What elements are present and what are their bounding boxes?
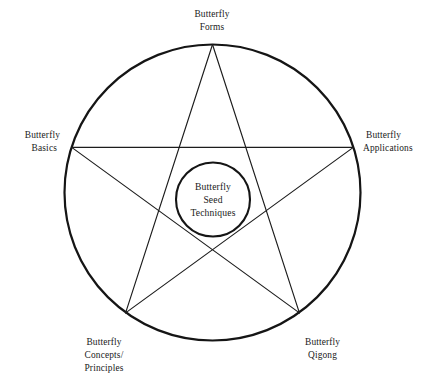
node-label-qigong-line-1: Butterfly xyxy=(305,337,340,347)
node-label-basics-line-2: Basics xyxy=(32,143,58,153)
center-label-line-1: Butterfly xyxy=(195,181,231,192)
node-label-concepts-line-2: Concepts/ xyxy=(85,350,124,360)
node-label-applications: Butterfly Applications xyxy=(363,130,413,153)
node-label-qigong-line-2: Qigong xyxy=(308,350,337,360)
node-label-concepts-line-1: Butterfly xyxy=(86,337,121,347)
node-label-qigong: Butterfly Qigong xyxy=(305,337,340,360)
node-label-forms-line-1: Butterfly xyxy=(194,9,229,19)
node-label-concepts-line-3: Principles xyxy=(85,363,124,373)
center-label-line-2: Seed xyxy=(203,194,222,205)
node-label-forms: Butterfly Forms xyxy=(194,9,229,32)
center-label-line-3: Techniques xyxy=(190,207,235,218)
node-label-applications-line-2: Applications xyxy=(363,143,413,153)
diagram-canvas: Butterfly Seed Techniques Butterfly Form… xyxy=(0,0,434,382)
node-label-forms-line-2: Forms xyxy=(200,22,225,32)
node-label-basics-line-1: Butterfly xyxy=(25,130,60,140)
node-label-applications-line-1: Butterfly xyxy=(366,130,401,140)
node-label-concepts-principles: Butterfly Concepts/ Principles xyxy=(85,337,124,373)
pentagram-diagram: Butterfly Seed Techniques Butterfly Form… xyxy=(0,0,434,382)
node-label-basics: Butterfly Basics xyxy=(25,130,60,153)
